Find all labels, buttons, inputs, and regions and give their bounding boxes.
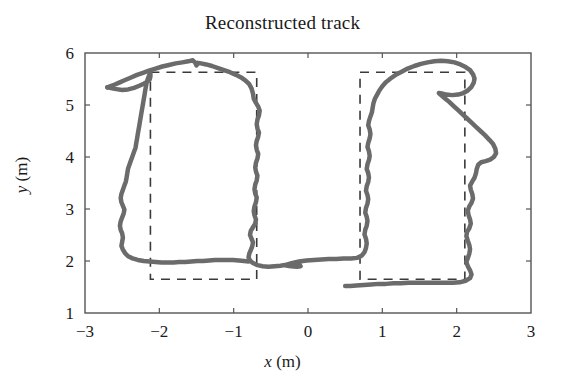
y-tick-label: 3: [66, 200, 75, 219]
x-tick-label: −1: [225, 322, 243, 341]
y-tick-label: 4: [66, 148, 75, 167]
y-axis-label: y (m): [12, 135, 32, 215]
x-axis-label: x (m): [0, 352, 565, 372]
track-path-outer: [107, 73, 248, 263]
track-path-main: [107, 60, 496, 286]
y-tick-label: 2: [66, 252, 75, 271]
y-tick-label: 1: [66, 304, 75, 323]
y-tick-label: 6: [66, 44, 75, 63]
x-tick-label: 3: [527, 322, 536, 341]
x-tick-label: 1: [378, 322, 387, 341]
x-tick-label: −3: [76, 322, 94, 341]
x-tick-label: 0: [304, 322, 313, 341]
left-reference-rectangle: [150, 72, 256, 279]
y-axis-label-var: y: [12, 186, 31, 194]
x-axis-label-unit: (m): [276, 352, 301, 371]
plot-canvas: −3−2−10123123456: [0, 0, 565, 387]
y-tick-label: 5: [66, 96, 75, 115]
x-tick-label: −2: [150, 322, 168, 341]
y-axis-label-unit: (m): [12, 157, 31, 182]
x-axis-label-var: x: [264, 352, 272, 371]
figure-reconstructed-track: Reconstructed track −3−2−10123123456 x (…: [0, 0, 565, 387]
x-tick-label: 2: [452, 322, 461, 341]
